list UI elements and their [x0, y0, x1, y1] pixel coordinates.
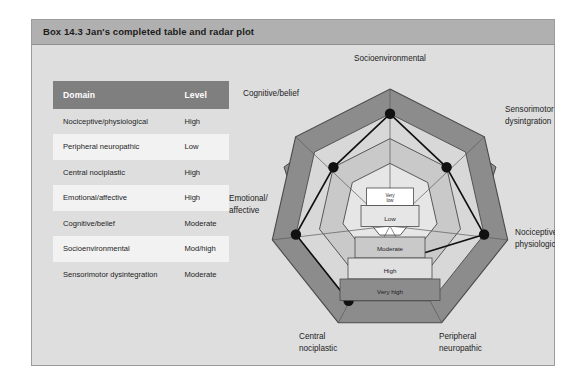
box-frame: Box 14.3 Jan's completed table and radar…	[31, 19, 555, 366]
table-row: Emotional/affective High	[53, 185, 229, 210]
box-body: Domain Level Nociceptive/physiological H…	[32, 45, 554, 365]
radar-point-sensorimotor-dysintegration	[441, 162, 451, 172]
domain-level-table: Domain Level Nociceptive/physiological H…	[53, 81, 229, 287]
radar-point-socioenvironmental	[385, 109, 395, 119]
box-title-bar: Box 14.3 Jan's completed table and radar…	[32, 20, 554, 45]
screenshot-page: Box 14.3 Jan's completed table and radar…	[0, 0, 587, 384]
cell-domain: Peripheral neuropathic	[53, 134, 180, 159]
cell-domain: Emotional/affective	[53, 185, 180, 210]
cell-level: Mod/high	[180, 236, 229, 261]
cell-domain: Central nociplastic	[53, 160, 180, 185]
cell-domain: Socioenvironmental	[53, 236, 180, 261]
cell-level: Moderate	[180, 211, 229, 236]
ring-label-very-low-line1: Very	[385, 193, 395, 198]
cell-level: High	[180, 109, 229, 134]
box-title: Box 14.3 Jan's completed table and radar…	[43, 26, 254, 37]
axis-label-emotional-line1: Emotional/	[229, 194, 268, 203]
table-row: Cognitive/belief Moderate	[53, 211, 229, 236]
cell-level: High	[180, 185, 229, 210]
radar-point-nociceptive-physiological	[479, 229, 489, 239]
cell-domain: Sensorimotor dysintegration	[53, 262, 180, 287]
ring-label-low: Low	[384, 215, 396, 222]
axis-label-sensorimotor-line1: Sensorimotor	[505, 105, 554, 114]
cell-domain: Cognitive/belief	[53, 211, 180, 236]
table-row: Sensorimotor dysintegration Moderate	[53, 262, 229, 287]
axis-label-nociceptive-line1: Nociceptive/	[515, 228, 555, 237]
axis-label-cognitive-belief: Cognitive/belief	[243, 89, 300, 98]
cell-level: Moderate	[180, 262, 229, 287]
radar-point-emotional-affective	[291, 229, 301, 239]
axis-label-sensorimotor-line2: dysintgration	[505, 117, 552, 126]
axis-label-nociceptive-line2: physiological	[515, 240, 555, 249]
axis-label-central-line1: Central	[299, 332, 326, 341]
table-row: Socioenvironmental Mod/high	[53, 236, 229, 261]
ring-label-high: High	[384, 267, 397, 274]
table-header-row: Domain Level	[53, 81, 229, 109]
table-row: Nociceptive/physiological High	[53, 109, 229, 134]
cell-domain: Nociceptive/physiological	[53, 109, 180, 134]
column-header-level: Level	[180, 81, 229, 109]
cell-level: High	[180, 160, 229, 185]
ring-label-very-high: Very high	[377, 288, 403, 295]
axis-label-peripheral-line2: neuropathic	[439, 344, 482, 353]
radar-svg: Very low Low Moderate High Very high Soc…	[227, 45, 555, 367]
ring-label-very-low-line2: low	[387, 198, 395, 203]
radar-point-cognitive-belief	[328, 162, 338, 172]
axis-label-peripheral-line1: Peripheral	[439, 332, 477, 341]
ring-label-moderate: Moderate	[377, 245, 404, 252]
table-row: Peripheral neuropathic Low	[53, 134, 229, 159]
axis-label-emotional-line2: affective	[229, 206, 260, 215]
radar-chart: Very low Low Moderate High Very high Soc…	[227, 45, 555, 367]
column-header-domain: Domain	[53, 81, 180, 109]
cell-level: Low	[180, 134, 229, 159]
table-row: Central nociplastic High	[53, 160, 229, 185]
axis-label-socioenvironmental: Socioenvironmental	[354, 54, 426, 63]
axis-label-central-line2: nociplastic	[299, 344, 337, 353]
